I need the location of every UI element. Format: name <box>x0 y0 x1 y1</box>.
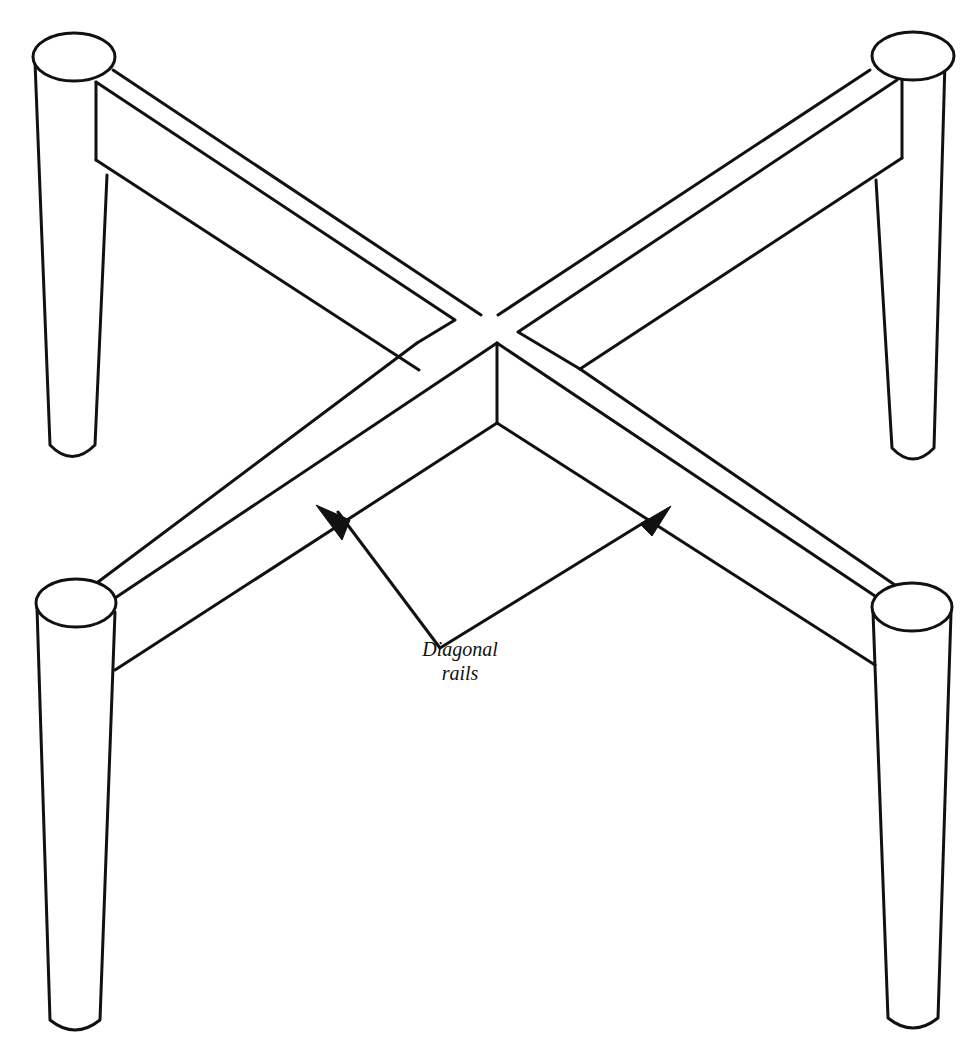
diagram-canvas: Diagonal rails <box>0 0 979 1049</box>
label-line-2: rails <box>380 661 540 685</box>
rail-center-to-front-left <box>98 343 497 670</box>
leg-back-left <box>33 33 115 457</box>
leg-back-right <box>872 32 954 459</box>
diagonal-rails-label: Diagonal rails <box>380 637 540 685</box>
rail-back-right-to-center <box>498 70 902 369</box>
leg-front-left <box>36 579 116 1030</box>
rail-back-left-to-center <box>96 70 481 370</box>
table-base-drawing <box>0 0 979 1049</box>
arrowhead-left-icon <box>316 505 350 540</box>
leg-front-right <box>872 583 952 1028</box>
annotation-arrows <box>316 505 671 648</box>
label-line-1: Diagonal <box>380 637 540 661</box>
rail-center-to-front-right <box>497 343 895 665</box>
